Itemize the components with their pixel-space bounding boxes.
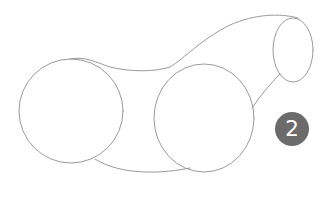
bottom-belly-curve	[95, 159, 190, 172]
right-circle	[154, 64, 254, 172]
small-ellipse	[273, 18, 313, 82]
right-connector-curve	[252, 74, 280, 108]
step-number-badge: 2	[275, 112, 309, 146]
top-back-curve	[70, 15, 298, 71]
pencil-sketch	[0, 0, 327, 206]
left-circle	[19, 59, 123, 163]
